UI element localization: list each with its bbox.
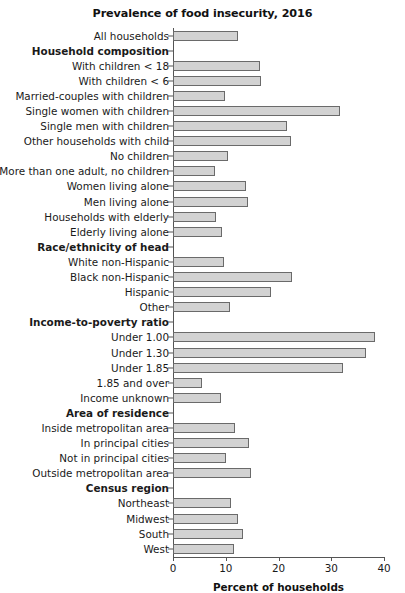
bar-row: Under 1.85 <box>0 360 405 375</box>
bar <box>173 151 228 161</box>
group-header-row: Income-to-poverty ratio <box>0 315 405 330</box>
bar-row: Outside metropolitan area <box>0 466 405 481</box>
y-axis-tick <box>168 322 173 323</box>
bar <box>173 166 215 176</box>
y-axis-tick <box>168 246 173 247</box>
group-header-row: Household composition <box>0 43 405 58</box>
category-label: Under 1.30 <box>111 347 169 358</box>
x-axis-tick <box>279 557 280 561</box>
y-axis-tick <box>168 488 173 489</box>
category-label: All households <box>94 30 169 41</box>
bar <box>173 498 231 508</box>
group-header-label: Area of residence <box>66 407 169 418</box>
category-label: Inside metropolitan area <box>42 422 169 433</box>
category-label: Not in principal cities <box>59 453 169 464</box>
bar <box>173 332 375 342</box>
x-axis-tick-label: 40 <box>377 562 390 574</box>
x-axis-tick-label: 0 <box>170 562 177 574</box>
bar-row: Inside metropolitan area <box>0 420 405 435</box>
group-header-label: Household composition <box>32 45 169 56</box>
bar <box>173 91 225 101</box>
bar-row: Not in principal cities <box>0 451 405 466</box>
bar <box>173 227 222 237</box>
bar <box>173 302 230 312</box>
bar-row: South <box>0 526 405 541</box>
bar-row: In principal cities <box>0 436 405 451</box>
category-label: Under 1.00 <box>111 332 169 343</box>
group-header-row: Area of residence <box>0 405 405 420</box>
category-label: Single women with children <box>25 106 169 117</box>
bar <box>173 136 291 146</box>
category-label: West <box>143 543 169 554</box>
chart-title: Prevalence of food insecurity, 2016 <box>0 7 405 20</box>
bar-row: Hispanic <box>0 285 405 300</box>
bar <box>173 423 235 433</box>
x-axis-tick-label: 10 <box>219 562 232 574</box>
bar <box>173 106 340 116</box>
bar <box>173 514 238 524</box>
group-header-row: Census region <box>0 481 405 496</box>
category-label: White non-Hispanic <box>68 256 169 267</box>
category-label: Elderly living alone <box>70 226 169 237</box>
category-label: With children < 6 <box>78 75 169 86</box>
x-axis-tick <box>226 557 227 561</box>
bar <box>173 529 243 539</box>
category-label: Black non-Hispanic <box>70 272 169 283</box>
bar <box>173 438 249 448</box>
bar-rows: All householdsHousehold compositionWith … <box>0 28 405 556</box>
bar-row: White non-Hispanic <box>0 254 405 269</box>
x-axis-tick-label: 30 <box>325 562 338 574</box>
bar <box>173 212 216 222</box>
category-label: 1.85 and over <box>97 377 169 388</box>
category-label: South <box>139 528 169 539</box>
category-label: Other households with child <box>24 136 169 147</box>
category-label: Under 1.85 <box>111 362 169 373</box>
category-label: Other <box>139 302 169 313</box>
bar-row: Single women with children <box>0 103 405 118</box>
bar-row: Black non-Hispanic <box>0 270 405 285</box>
category-label: More than one adult, no children <box>0 166 169 177</box>
bar-row: Households with elderly <box>0 209 405 224</box>
bar <box>173 348 366 358</box>
bar <box>173 468 251 478</box>
category-label: Single men with children <box>40 121 169 132</box>
bar-row: Women living alone <box>0 179 405 194</box>
bar-row: Other <box>0 300 405 315</box>
bar-row: Under 1.00 <box>0 330 405 345</box>
bar <box>173 257 224 267</box>
bar <box>173 31 238 41</box>
bar-row: West <box>0 541 405 556</box>
x-axis-tick <box>384 557 385 561</box>
bar-row: More than one adult, no children <box>0 164 405 179</box>
plot-area: All householdsHousehold compositionWith … <box>0 28 405 556</box>
group-header-label: Census region <box>86 483 169 494</box>
bar <box>173 363 343 373</box>
bar-row: No children <box>0 149 405 164</box>
group-header-label: Income-to-poverty ratio <box>29 317 169 328</box>
bar-row: 1.85 and over <box>0 375 405 390</box>
group-header-row: Race/ethnicity of head <box>0 239 405 254</box>
bar-row: Single men with children <box>0 119 405 134</box>
category-label: Income unknown <box>80 392 169 403</box>
y-axis-tick <box>168 412 173 413</box>
category-label: No children <box>110 151 169 162</box>
bar <box>173 544 234 554</box>
bar-row: With children < 6 <box>0 73 405 88</box>
bar <box>173 287 271 297</box>
category-label: Men living alone <box>84 196 169 207</box>
y-axis-tick <box>168 50 173 51</box>
bar-row: Northeast <box>0 496 405 511</box>
x-axis-title: Percent of households <box>173 581 384 593</box>
bar <box>173 181 246 191</box>
bar-row: Married-couples with children <box>0 88 405 103</box>
bar-row: Under 1.30 <box>0 345 405 360</box>
category-label: Married-couples with children <box>15 90 169 101</box>
bar <box>173 272 292 282</box>
bar-row: Men living alone <box>0 194 405 209</box>
category-label: With children < 18 <box>72 60 169 71</box>
x-axis-tick-label: 20 <box>272 562 285 574</box>
bar-row: Elderly living alone <box>0 224 405 239</box>
category-label: Northeast <box>118 498 169 509</box>
category-label: Hispanic <box>125 287 169 298</box>
bar <box>173 197 248 207</box>
